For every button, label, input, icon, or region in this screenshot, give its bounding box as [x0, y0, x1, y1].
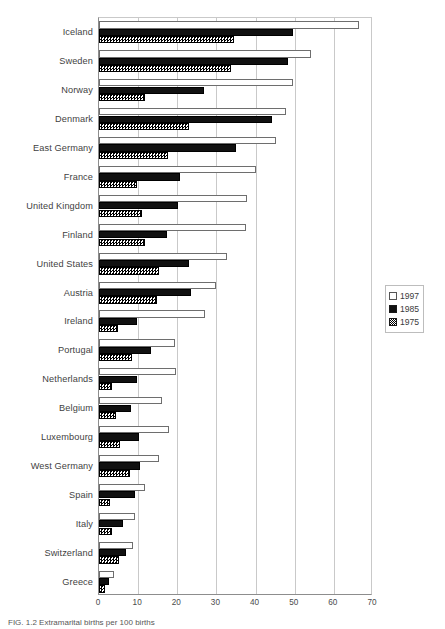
bar-1975-belgium — [99, 412, 116, 419]
figure-container: IcelandSwedenNorwayDenmarkEast GermanyFr… — [0, 0, 445, 629]
chart-row: Austria — [99, 278, 371, 307]
category-label-united-kingdom: United Kingdom — [26, 201, 93, 211]
bar-1997-ireland — [99, 310, 205, 317]
category-label-spain: Spain — [69, 490, 93, 500]
bar-group — [99, 47, 371, 76]
chart-row: Finland — [99, 220, 371, 249]
bar-1997-denmark — [99, 108, 286, 115]
chart-legend: 199719851975 — [385, 285, 424, 333]
x-tick-label-30: 30 — [211, 598, 220, 607]
bar-1997-east-germany — [99, 137, 276, 144]
bar-1975-sweden — [99, 65, 231, 72]
category-label-ireland: Ireland — [64, 316, 93, 326]
bar-group — [99, 423, 371, 452]
bar-1997-france — [99, 166, 256, 173]
legend-item-1975[interactable]: 1975 — [389, 316, 419, 328]
legend-item-1997[interactable]: 1997 — [389, 290, 419, 302]
category-label-belgium: Belgium — [59, 403, 93, 413]
chart-row: Italy — [99, 509, 371, 538]
bar-group — [99, 509, 371, 538]
chart-row: United States — [99, 249, 371, 278]
bar-1997-italy — [99, 513, 135, 520]
category-label-luxembourg: Luxembourg — [41, 432, 93, 442]
bar-group — [99, 105, 371, 134]
category-label-united-states: United States — [37, 259, 93, 269]
bar-1975-west-germany — [99, 470, 130, 477]
x-tick-label-70: 70 — [367, 598, 376, 607]
bar-1985-east-germany — [99, 144, 236, 151]
bar-1975-spain — [99, 499, 110, 506]
bar-1997-netherlands — [99, 368, 176, 375]
bar-group — [99, 336, 371, 365]
chart-plot-area: IcelandSwedenNorwayDenmarkEast GermanyFr… — [98, 17, 372, 595]
bar-1975-finland — [99, 239, 145, 246]
bar-group — [99, 567, 371, 596]
bar-group — [99, 134, 371, 163]
chart-row: Netherlands — [99, 365, 371, 394]
chart-row: Norway — [99, 76, 371, 105]
bar-1985-austria — [99, 289, 191, 296]
bar-1975-italy — [99, 528, 112, 535]
black-square-icon — [389, 305, 397, 313]
chart-row: Sweden — [99, 47, 371, 76]
bar-1975-luxembourg — [99, 441, 120, 448]
bar-1975-east-germany — [99, 152, 168, 159]
bar-1985-west-germany — [99, 462, 140, 469]
bar-1985-united-kingdom — [99, 202, 178, 209]
bar-1997-belgium — [99, 397, 162, 404]
bar-1985-italy — [99, 520, 123, 527]
white-square-icon — [389, 292, 397, 300]
figure-caption: FIG. 1.2 Extramarital births per 100 bir… — [8, 618, 428, 627]
bar-1985-spain — [99, 491, 135, 498]
bar-1997-greece — [99, 571, 114, 578]
category-label-finland: Finland — [62, 230, 93, 240]
bar-group — [99, 191, 371, 220]
bar-1985-united-states — [99, 260, 189, 267]
bar-1985-denmark — [99, 116, 272, 123]
legend-label-1985: 1985 — [400, 305, 419, 314]
bar-1997-spain — [99, 484, 145, 491]
bar-1997-austria — [99, 282, 216, 289]
bar-group — [99, 538, 371, 567]
bar-1997-portugal — [99, 339, 175, 346]
bar-1975-iceland — [99, 36, 234, 43]
chart-row: Portugal — [99, 336, 371, 365]
category-label-iceland: Iceland — [63, 27, 93, 37]
bar-1975-norway — [99, 94, 145, 101]
bar-group — [99, 480, 371, 509]
chart-row: Switzerland — [99, 538, 371, 567]
category-label-denmark: Denmark — [55, 114, 93, 124]
bar-1985-greece — [99, 578, 109, 585]
bar-1997-finland — [99, 224, 246, 231]
chart-row: Greece — [99, 567, 371, 596]
chart-row: East Germany — [99, 134, 371, 163]
hatched-square-icon — [389, 318, 397, 326]
category-label-netherlands: Netherlands — [42, 374, 93, 384]
bar-1985-ireland — [99, 318, 137, 325]
category-label-sweden: Sweden — [59, 56, 93, 66]
bar-1997-united-kingdom — [99, 195, 247, 202]
category-label-france: France — [64, 172, 93, 182]
chart-row: Spain — [99, 480, 371, 509]
bar-1985-luxembourg — [99, 433, 139, 440]
x-tick-label-60: 60 — [328, 598, 337, 607]
chart-row: United Kingdom — [99, 191, 371, 220]
bar-1975-france — [99, 181, 137, 188]
bar-1975-greece — [99, 585, 105, 592]
bar-1997-norway — [99, 79, 293, 86]
bar-group — [99, 394, 371, 423]
bar-1975-denmark — [99, 123, 189, 130]
bar-1985-sweden — [99, 58, 288, 65]
bar-group — [99, 249, 371, 278]
legend-label-1975: 1975 — [400, 318, 419, 327]
bar-1985-netherlands — [99, 376, 137, 383]
legend-label-1997: 1997 — [400, 292, 419, 301]
chart-row: France — [99, 163, 371, 192]
bar-1985-france — [99, 173, 180, 180]
bar-1985-iceland — [99, 29, 293, 36]
category-label-east-germany: East Germany — [33, 143, 93, 153]
bar-1997-luxembourg — [99, 426, 169, 433]
bar-1997-sweden — [99, 50, 311, 57]
x-tick-label-20: 20 — [172, 598, 181, 607]
legend-item-1985[interactable]: 1985 — [389, 303, 419, 315]
